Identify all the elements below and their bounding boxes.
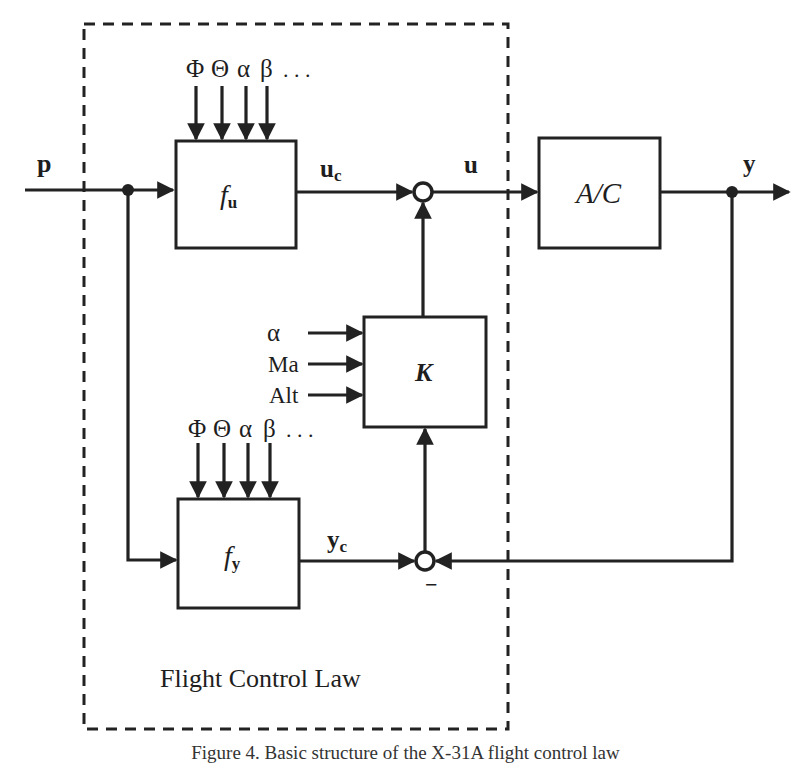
branch-to-fy bbox=[128, 190, 176, 560]
signal-label-uc: uc bbox=[320, 155, 342, 185]
fu-input-label-ellipsis: . . . bbox=[283, 57, 311, 82]
fy-input-label-beta: β bbox=[263, 415, 276, 442]
fu-input-label-phi: Φ bbox=[186, 55, 204, 82]
figure-caption: Figure 4. Basic structure of the X-31A f… bbox=[0, 742, 811, 764]
signal-label-u: u bbox=[464, 151, 478, 178]
aircraft-block-label: A/C bbox=[574, 177, 622, 209]
k-input-label-alt: Alt bbox=[269, 383, 299, 408]
fy-input-label-ellipsis: . . . bbox=[286, 417, 314, 442]
gain-block-label: K bbox=[414, 358, 434, 387]
fu-input-label-theta: Θ bbox=[211, 55, 229, 82]
k-input-label-alpha: α bbox=[267, 319, 280, 346]
flight-control-law-label: Flight Control Law bbox=[160, 664, 361, 694]
summing-node-u bbox=[414, 183, 432, 201]
signal-label-yc: yc bbox=[327, 526, 348, 556]
fy-input-label-alpha: α bbox=[239, 415, 252, 442]
feedback-minus-sign: − bbox=[425, 572, 438, 597]
summing-node-y bbox=[416, 552, 434, 570]
fu-input-label-beta: β bbox=[260, 55, 273, 82]
fu-input-label-alpha: α bbox=[237, 55, 250, 82]
signal-label-p: p bbox=[37, 149, 51, 178]
signal-label-y: y bbox=[743, 150, 756, 177]
fy-input-label-theta: Θ bbox=[213, 415, 231, 442]
fy-input-label-phi: Φ bbox=[188, 415, 206, 442]
k-input-label-ma: Ma bbox=[268, 352, 299, 377]
